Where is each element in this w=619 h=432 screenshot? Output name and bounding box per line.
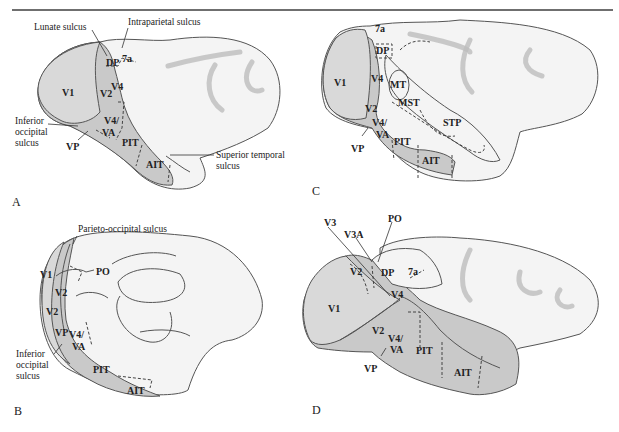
area-dp: DP — [376, 45, 389, 56]
superior-temporal-sulcus-label-1: Superior temporal — [216, 150, 285, 160]
area-pit: PIT — [416, 345, 433, 356]
area-pit: PIT — [394, 136, 411, 147]
area-vp: VP — [351, 143, 364, 154]
area-v3: V3 — [324, 217, 336, 228]
area-vp: VP — [66, 141, 79, 152]
area-ait: AIT — [422, 155, 440, 166]
intraparietal-sulcus-label: Intraparietal sulcus — [128, 17, 201, 27]
panel-letter-d: D — [312, 403, 321, 417]
area-v2-ventral: V2 — [46, 306, 58, 317]
panel-b: Parieto-occipital sulcus Inferior occipi… — [14, 224, 262, 418]
lunate-sulcus-label: Lunate sulcus — [34, 22, 87, 32]
panel-a-v1 — [38, 42, 100, 123]
area-vp: VP — [55, 327, 68, 338]
inferior-occipital-sulcus-label-1: Inferior — [16, 349, 46, 359]
area-v4: V4 — [371, 73, 383, 84]
area-pit: PIT — [93, 364, 110, 375]
area-v4-ventral: V4/ — [69, 329, 84, 340]
area-v4: V4 — [111, 81, 123, 92]
area-stp: STP — [443, 117, 461, 128]
brain-figure: Lunate sulcus Intraparietal sulcus Infer… — [0, 0, 619, 432]
area-v2-dorsal: V2 — [55, 287, 67, 298]
inferior-occipital-sulcus-label-1: Inferior — [15, 116, 45, 126]
area-7a: 7a — [375, 23, 385, 34]
panel-letter-b: B — [14, 404, 22, 418]
inferior-occipital-sulcus-label-3: sulcus — [16, 371, 40, 381]
inferior-occipital-sulcus-label-2: occipital — [15, 127, 48, 137]
area-ait: AIT — [127, 385, 145, 396]
area-v1: V1 — [334, 77, 346, 88]
area-v1: V1 — [40, 269, 52, 280]
panel-c: 7a DP V1 V4 MT MST V2 V4/ VA STP PIT VP … — [312, 20, 598, 198]
area-v4-ventral: V4/ — [372, 117, 387, 128]
area-ait: AIT — [454, 367, 472, 378]
area-ait: AIT — [146, 159, 164, 170]
area-v2-ventral: V2 — [372, 325, 384, 336]
area-v4-ventral: V4/ — [388, 333, 403, 344]
panel-b-cortex — [40, 232, 262, 395]
area-v1: V1 — [62, 87, 74, 98]
panel-d: V3 V3A PO V2 DP 7a V1 V4 V2 V4/ VA PIT V… — [303, 213, 599, 417]
area-7a: 7a — [122, 53, 132, 64]
area-vp: VP — [364, 363, 377, 374]
area-v4: V4 — [391, 289, 403, 300]
area-po: PO — [388, 213, 402, 224]
inferior-occipital-sulcus-label-3: sulcus — [15, 138, 39, 148]
area-v2-dorsal: V2 — [350, 266, 362, 277]
panel-letter-c: C — [312, 184, 320, 198]
area-pit: PIT — [122, 137, 139, 148]
panel-c-v1 — [323, 29, 370, 119]
area-mt: MT — [390, 79, 406, 90]
superior-temporal-sulcus-label-2: sulcus — [216, 161, 240, 171]
area-v3a: V3A — [344, 229, 364, 240]
area-va: VA — [390, 344, 404, 355]
area-va: VA — [376, 129, 390, 140]
panel-a: Lunate sulcus Intraparietal sulcus Infer… — [12, 17, 285, 209]
area-va: VA — [72, 341, 86, 352]
panel-letter-a: A — [12, 195, 21, 209]
area-dp: DP — [106, 57, 119, 68]
area-va: VA — [102, 127, 116, 138]
area-dp: DP — [381, 267, 394, 278]
area-v4-ventral: V4/ — [104, 115, 119, 126]
area-v2: V2 — [365, 103, 377, 114]
area-v1: V1 — [328, 303, 340, 314]
area-mst: MST — [398, 97, 420, 108]
inferior-occipital-sulcus-label-2: occipital — [16, 360, 49, 370]
area-po: PO — [96, 266, 110, 277]
area-7a: 7a — [408, 266, 418, 277]
parieto-occipital-sulcus-label: Parieto-occipital sulcus — [78, 224, 167, 234]
